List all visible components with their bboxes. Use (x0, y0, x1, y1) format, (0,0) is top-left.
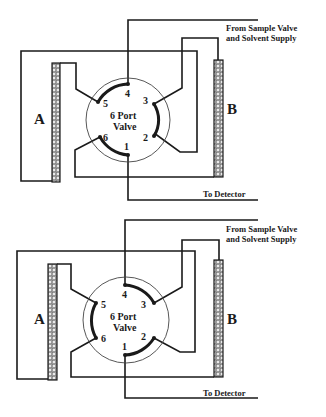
port-4-label: 4 (125, 88, 130, 99)
valve-diagram-position-1: 4 5 3 2 6 1 6 Port Valve A B From Sample… (21, 20, 297, 200)
port-6-label: 6 (101, 333, 106, 344)
valve-label-2: Valve (113, 121, 137, 132)
inlet-label-2: and Solvent Supply (226, 33, 297, 43)
outlet-label: To Detector (203, 388, 246, 398)
port-3-label: 3 (141, 299, 146, 310)
valve-diagram-position-2: 4 5 3 2 6 1 6 Port Valve A B From Sample… (17, 220, 297, 398)
inlet-label-2: and Solvent Supply (226, 234, 297, 244)
column-b-label: B (227, 101, 237, 117)
outlet-label: To Detector (203, 189, 246, 199)
valve-label: 6 Port (110, 110, 137, 121)
column-a-label: A (34, 311, 45, 327)
column-b-bottom (214, 260, 223, 377)
diagram-canvas: 4 5 3 2 6 1 6 Port Valve A B From Sample… (0, 0, 326, 417)
port-1-label: 1 (122, 341, 127, 352)
port-5-label: 5 (101, 299, 106, 310)
column-a-label: A (34, 111, 45, 127)
column-b-top (214, 60, 223, 177)
port-5-label: 5 (103, 98, 108, 109)
valve-label-2: Valve (113, 322, 137, 333)
port-6-label: 6 (103, 132, 108, 143)
port-2-label: 2 (143, 132, 148, 143)
port-3-label: 3 (143, 95, 148, 106)
inlet-label: From Sample Valve (226, 23, 297, 33)
column-a-top (52, 63, 60, 182)
valve-label: 6 Port (110, 311, 137, 322)
port-1-label: 1 (124, 141, 129, 152)
column-a-bottom (48, 264, 57, 380)
port-4-label: 4 (122, 289, 127, 300)
port-2-label: 2 (141, 331, 146, 342)
inlet-label: From Sample Valve (226, 224, 297, 234)
column-b-label: B (227, 311, 237, 327)
